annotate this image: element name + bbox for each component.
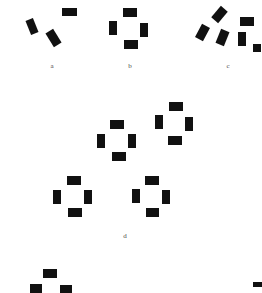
cluster-label-a: a <box>45 62 59 70</box>
labels-layer: abcd <box>0 0 262 293</box>
figure-canvas: abcd <box>0 0 262 293</box>
cluster-label-d: d <box>118 232 132 240</box>
cluster-label-b: b <box>123 62 137 70</box>
cluster-label-c: c <box>221 62 235 70</box>
